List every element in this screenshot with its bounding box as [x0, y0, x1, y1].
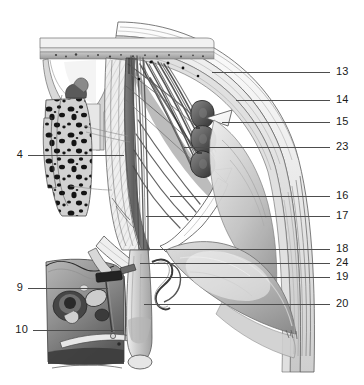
skull-base-block: [46, 259, 137, 368]
leader-line-15: [222, 122, 330, 123]
leader-line-4: [28, 155, 124, 156]
leader-line-9: [28, 288, 108, 289]
label-14: 14: [336, 94, 349, 105]
label-13: 13: [336, 66, 349, 77]
leader-line-16: [170, 196, 330, 197]
leader-line-23: [184, 147, 330, 148]
label-23: 23: [336, 141, 349, 152]
anatomical-plate: 491013141523161718241920: [0, 0, 364, 385]
label-15: 15: [336, 116, 349, 127]
label-4: 4: [0, 149, 23, 160]
label-20: 20: [336, 298, 349, 309]
label-9: 9: [0, 282, 23, 293]
leader-line-18: [140, 249, 330, 250]
label-19: 19: [336, 271, 349, 282]
leader-line-14: [236, 100, 330, 101]
leader-line-19: [140, 277, 330, 278]
leader-line-17: [146, 216, 330, 217]
leader-line-24: [140, 263, 330, 264]
label-24: 24: [336, 257, 349, 268]
label-18: 18: [336, 243, 349, 254]
label-16: 16: [336, 190, 349, 201]
leader-line-10: [33, 330, 124, 331]
label-10: 10: [0, 324, 28, 335]
leader-line-13: [212, 72, 330, 73]
leader-line-20: [144, 304, 330, 305]
label-17: 17: [336, 210, 349, 221]
anatomy-illustration: [0, 0, 364, 385]
